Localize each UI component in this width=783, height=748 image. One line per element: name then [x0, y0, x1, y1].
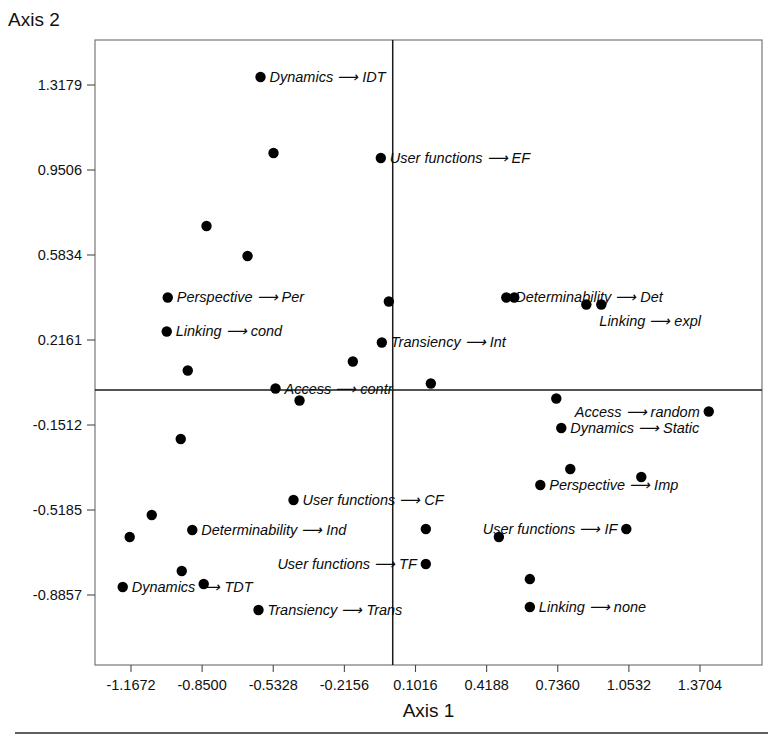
data-point[interactable]: [596, 299, 606, 309]
data-point-label: Perspective ⟶ Per: [177, 289, 306, 305]
data-point-label: User functions ⟶ TF: [277, 556, 418, 572]
data-point[interactable]: [426, 378, 436, 388]
data-point[interactable]: [201, 221, 211, 231]
data-point[interactable]: [177, 566, 187, 576]
data-point-label: Dynamics ⟶ IDT: [270, 69, 387, 85]
x-tick-label: -1.1672: [106, 677, 155, 693]
data-point[interactable]: [509, 292, 519, 302]
data-point[interactable]: [525, 602, 535, 612]
x-axis-title: Axis 1: [403, 700, 455, 721]
data-point[interactable]: [242, 251, 252, 261]
y-tick-label: 0.2161: [38, 332, 82, 348]
x-tick-label: 0.1016: [393, 677, 437, 693]
data-point-label: Linking ⟶ expl: [599, 313, 701, 329]
plot-frame: [95, 40, 762, 665]
y-axis-title: Axis 2: [8, 9, 60, 30]
x-tick-label: 0.7360: [536, 677, 580, 693]
data-point-label: Dynamics ⟶ TDT: [132, 579, 254, 595]
data-point[interactable]: [288, 495, 298, 505]
x-tick-label: -0.5328: [249, 677, 298, 693]
data-point-label: User functions ⟶ EF: [390, 150, 531, 166]
data-point-label: Access ⟶ contr: [284, 381, 394, 397]
y-tick-label: 0.5834: [38, 247, 82, 263]
data-point-label: Access ⟶ random: [574, 404, 700, 420]
chart-canvas: -1.1672-0.8500-0.5328-0.21560.10160.4188…: [0, 0, 783, 748]
data-point[interactable]: [348, 356, 358, 366]
data-point-label: Linking ⟶ none: [539, 599, 646, 615]
y-tick-label: -0.5185: [33, 502, 82, 518]
data-point[interactable]: [176, 434, 186, 444]
data-point[interactable]: [255, 72, 265, 82]
data-point-label: Dynamics ⟶ Static: [570, 420, 700, 436]
data-point[interactable]: [294, 395, 304, 405]
data-point[interactable]: [268, 148, 278, 158]
y-tick-label: 0.9506: [38, 162, 82, 178]
data-point[interactable]: [162, 326, 172, 336]
data-point[interactable]: [163, 292, 173, 302]
data-point[interactable]: [124, 532, 134, 542]
data-point[interactable]: [551, 393, 561, 403]
data-point-label: Linking ⟶ cond: [176, 323, 283, 339]
data-point[interactable]: [199, 579, 209, 589]
data-point[interactable]: [421, 559, 431, 569]
y-tick-label: 1.3179: [38, 77, 82, 93]
data-point[interactable]: [494, 532, 504, 542]
y-tick-label: -0.8857: [33, 587, 82, 603]
data-point[interactable]: [704, 406, 714, 416]
x-tick-label: -0.8500: [178, 677, 227, 693]
data-point[interactable]: [621, 524, 631, 534]
data-point[interactable]: [376, 153, 386, 163]
y-tick-label: -0.1512: [33, 417, 82, 433]
data-point[interactable]: [636, 472, 646, 482]
data-point-label: Transiency ⟶ Int: [391, 334, 507, 350]
data-point-label: Perspective ⟶ Imp: [549, 477, 678, 493]
data-point[interactable]: [581, 299, 591, 309]
data-point[interactable]: [187, 525, 197, 535]
x-tick-label: 1.3704: [678, 677, 722, 693]
data-point[interactable]: [384, 296, 394, 306]
data-point[interactable]: [421, 524, 431, 534]
data-point-label: Transiency ⟶ Trans: [267, 602, 402, 618]
x-tick-label: -0.2156: [320, 677, 369, 693]
x-tick-label: 1.0532: [607, 677, 651, 693]
data-point[interactable]: [147, 510, 157, 520]
data-point[interactable]: [556, 423, 566, 433]
data-point[interactable]: [377, 337, 387, 347]
x-tick-label: 0.4188: [464, 677, 508, 693]
data-point[interactable]: [183, 365, 193, 375]
scatter-plot-figure: -1.1672-0.8500-0.5328-0.21560.10160.4188…: [0, 0, 783, 748]
data-point[interactable]: [270, 383, 280, 393]
data-point[interactable]: [525, 574, 535, 584]
data-point-label: Determinability ⟶ Ind: [201, 522, 347, 538]
data-point[interactable]: [253, 605, 263, 615]
data-point-label: User functions ⟶ CF: [303, 492, 445, 508]
data-point[interactable]: [118, 582, 128, 592]
data-point[interactable]: [535, 480, 545, 490]
data-point[interactable]: [565, 464, 575, 474]
